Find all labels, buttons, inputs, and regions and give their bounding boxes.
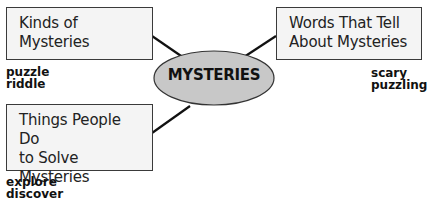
branch-title-line: Things People Do — [19, 111, 142, 149]
connector-things — [152, 106, 190, 133]
connector-words — [244, 36, 276, 57]
branch-title-line: to Solve — [19, 149, 142, 168]
connector-kinds — [152, 36, 184, 58]
center-topic: MYSTERIES — [154, 66, 274, 84]
word-list-things: explore discover — [6, 176, 63, 200]
branch-box-kinds: Kinds of Mysteries — [6, 7, 153, 60]
word-item: riddle — [6, 78, 49, 90]
branch-box-things: Things People Do to Solve Mysteries — [6, 104, 153, 171]
word-item: puzzling — [371, 79, 427, 91]
word-item: discover — [6, 188, 63, 200]
branch-title-line: About Mysteries — [289, 33, 411, 52]
word-list-words: scary puzzling — [371, 67, 427, 91]
word-list-kinds: puzzle riddle — [6, 66, 49, 90]
branch-title-line: Mysteries — [19, 33, 142, 52]
branch-box-words: Words That Tell About Mysteries — [276, 7, 422, 60]
branch-title-line: Kinds of — [19, 14, 142, 33]
branch-title-line: Words That Tell — [289, 14, 411, 33]
